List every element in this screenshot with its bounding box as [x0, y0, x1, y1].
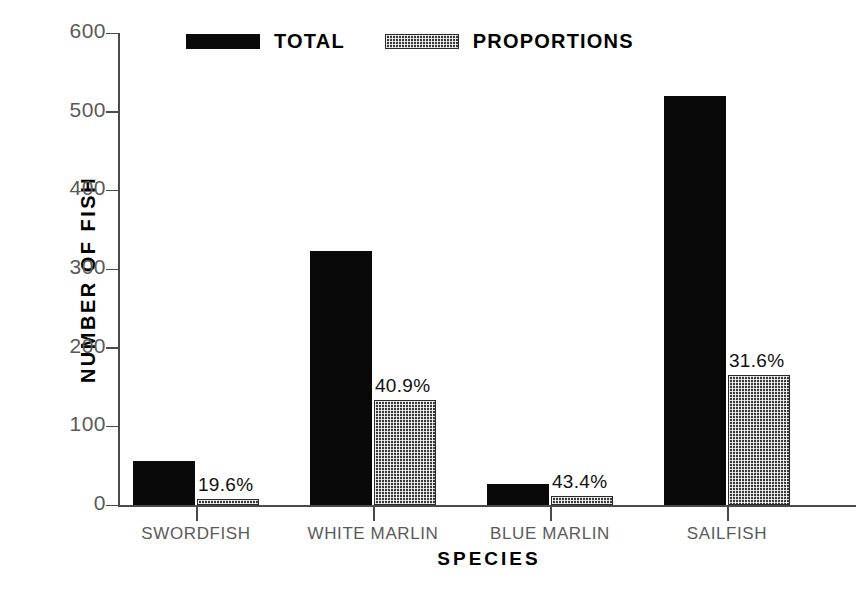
bar-total	[664, 96, 726, 505]
percent-label: 31.6%	[729, 350, 784, 372]
percent-label: 19.6%	[198, 474, 253, 496]
bar-proportion	[197, 499, 259, 505]
x-tick-mark	[373, 506, 375, 521]
y-tick-mark	[106, 269, 119, 271]
bar-proportion	[551, 496, 613, 505]
bar-total	[133, 461, 195, 505]
y-axis-title: NUMBER OF FISH	[77, 130, 100, 430]
percent-label: 40.9%	[375, 375, 430, 397]
y-tick-mark	[106, 347, 119, 349]
y-tick-mark	[106, 505, 119, 507]
bar-chart: NUMBER OF FISH 0100200300400500600 SWORD…	[0, 0, 862, 591]
x-tick-mark	[550, 506, 552, 521]
y-tick-mark	[106, 426, 119, 428]
y-tick-label: 100	[44, 412, 106, 436]
legend-item-proportions: PROPORTIONS	[385, 30, 634, 53]
x-tick-mark	[727, 506, 729, 521]
hatched-swatch-icon	[385, 34, 459, 49]
x-category-label: BLUE MARLIN	[460, 524, 640, 544]
y-tick-label: 500	[44, 98, 106, 122]
bar-proportion	[728, 375, 790, 505]
chart-legend: TOTAL PROPORTIONS	[186, 30, 634, 53]
legend-item-total: TOTAL	[186, 30, 345, 53]
y-tick-label: 300	[44, 255, 106, 279]
bar-total	[310, 251, 372, 505]
x-axis-line	[118, 505, 856, 507]
percent-label: 43.4%	[552, 471, 607, 493]
x-axis-title: SPECIES	[118, 548, 860, 570]
legend-label-total: TOTAL	[274, 30, 345, 53]
x-category-label: WHITE MARLIN	[283, 524, 463, 544]
x-tick-mark	[196, 506, 198, 521]
y-tick-label: 400	[44, 176, 106, 200]
legend-label-proportions: PROPORTIONS	[473, 30, 634, 53]
solid-swatch-icon	[186, 34, 260, 49]
x-category-label: SWORDFISH	[106, 524, 286, 544]
y-tick-mark	[106, 33, 119, 35]
y-tick-label: 200	[44, 334, 106, 358]
bar-proportion	[374, 400, 436, 505]
bar-total	[487, 484, 549, 505]
y-tick-mark	[106, 190, 119, 192]
y-tick-mark	[106, 111, 119, 113]
x-category-label: SAILFISH	[637, 524, 817, 544]
y-tick-label: 600	[44, 19, 106, 43]
y-tick-label: 0	[44, 491, 106, 515]
